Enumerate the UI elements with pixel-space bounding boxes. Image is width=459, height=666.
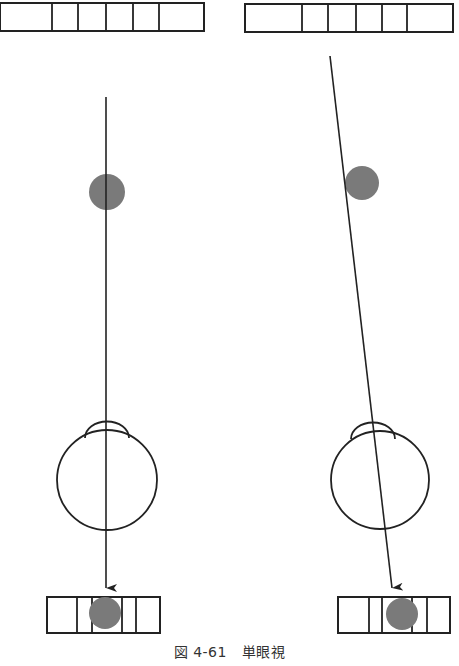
object-field-strip-frame — [0, 3, 204, 31]
object-dot — [345, 166, 379, 200]
monocular-vision-diagram — [0, 0, 459, 666]
object-field-strip — [0, 3, 204, 31]
object-field-strip — [245, 4, 453, 32]
panel-right-offset-gaze — [245, 4, 453, 633]
object-dot — [89, 174, 125, 210]
eyeball-icon — [57, 430, 157, 530]
caption-title: 単眼視 — [242, 644, 286, 660]
caption-number: 図 4-61 — [174, 644, 227, 660]
retinal-image-dot — [89, 597, 121, 629]
object-field-strip-frame — [245, 4, 453, 32]
figure-caption: 図 4-61 単眼視 — [0, 641, 459, 661]
panel-left-straight-gaze — [0, 3, 204, 633]
retinal-image-dot — [386, 598, 418, 630]
